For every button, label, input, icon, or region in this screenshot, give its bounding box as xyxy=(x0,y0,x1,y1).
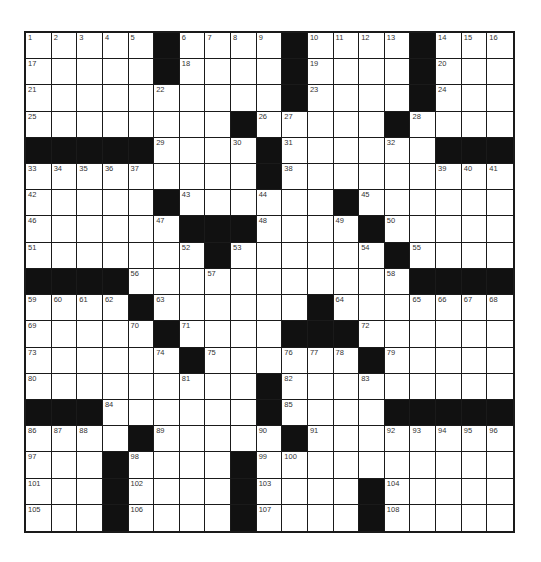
answer-cell[interactable] xyxy=(308,479,334,505)
answer-cell[interactable] xyxy=(77,321,103,347)
answer-cell[interactable]: 61 xyxy=(77,295,103,321)
answer-cell[interactable] xyxy=(231,321,257,347)
answer-cell[interactable]: 1 xyxy=(26,33,52,59)
answer-cell[interactable] xyxy=(487,112,513,138)
answer-cell[interactable] xyxy=(231,85,257,111)
answer-cell[interactable] xyxy=(205,295,231,321)
answer-cell[interactable] xyxy=(359,295,385,321)
answer-cell[interactable] xyxy=(77,348,103,374)
answer-cell[interactable]: 13 xyxy=(385,33,411,59)
answer-cell[interactable] xyxy=(334,164,360,190)
answer-cell[interactable]: 81 xyxy=(180,374,206,400)
answer-cell[interactable] xyxy=(231,426,257,452)
answer-cell[interactable] xyxy=(334,505,360,531)
answer-cell[interactable]: 4 xyxy=(103,33,129,59)
answer-cell[interactable] xyxy=(334,426,360,452)
answer-cell[interactable] xyxy=(487,85,513,111)
answer-cell[interactable] xyxy=(77,452,103,478)
answer-cell[interactable]: 93 xyxy=(410,426,436,452)
answer-cell[interactable] xyxy=(334,112,360,138)
answer-cell[interactable] xyxy=(52,479,78,505)
answer-cell[interactable]: 31 xyxy=(282,138,308,164)
answer-cell[interactable]: 87 xyxy=(52,426,78,452)
answer-cell[interactable] xyxy=(359,426,385,452)
answer-cell[interactable] xyxy=(462,321,488,347)
answer-cell[interactable]: 71 xyxy=(180,321,206,347)
answer-cell[interactable] xyxy=(205,374,231,400)
answer-cell[interactable]: 8 xyxy=(231,33,257,59)
answer-cell[interactable]: 91 xyxy=(308,426,334,452)
answer-cell[interactable] xyxy=(308,452,334,478)
answer-cell[interactable]: 25 xyxy=(26,112,52,138)
answer-cell[interactable] xyxy=(103,85,129,111)
answer-cell[interactable] xyxy=(334,452,360,478)
answer-cell[interactable]: 77 xyxy=(308,348,334,374)
answer-cell[interactable] xyxy=(77,243,103,269)
answer-cell[interactable] xyxy=(77,190,103,216)
answer-cell[interactable] xyxy=(334,138,360,164)
answer-cell[interactable] xyxy=(77,85,103,111)
answer-cell[interactable] xyxy=(436,348,462,374)
answer-cell[interactable] xyxy=(103,426,129,452)
answer-cell[interactable] xyxy=(487,374,513,400)
answer-cell[interactable] xyxy=(231,295,257,321)
answer-cell[interactable] xyxy=(103,374,129,400)
answer-cell[interactable] xyxy=(487,505,513,531)
answer-cell[interactable] xyxy=(129,85,155,111)
answer-cell[interactable] xyxy=(205,112,231,138)
answer-cell[interactable]: 63 xyxy=(154,295,180,321)
answer-cell[interactable] xyxy=(487,243,513,269)
answer-cell[interactable]: 106 xyxy=(129,505,155,531)
answer-cell[interactable] xyxy=(154,269,180,295)
answer-cell[interactable] xyxy=(52,452,78,478)
answer-cell[interactable]: 2 xyxy=(52,33,78,59)
answer-cell[interactable] xyxy=(154,400,180,426)
answer-cell[interactable] xyxy=(257,85,283,111)
answer-cell[interactable]: 84 xyxy=(103,400,129,426)
answer-cell[interactable]: 60 xyxy=(52,295,78,321)
answer-cell[interactable]: 82 xyxy=(282,374,308,400)
answer-cell[interactable]: 96 xyxy=(487,426,513,452)
answer-cell[interactable] xyxy=(77,216,103,242)
answer-cell[interactable] xyxy=(334,243,360,269)
answer-cell[interactable]: 67 xyxy=(462,295,488,321)
answer-cell[interactable] xyxy=(282,295,308,321)
answer-cell[interactable] xyxy=(231,400,257,426)
answer-cell[interactable] xyxy=(129,400,155,426)
answer-cell[interactable] xyxy=(129,112,155,138)
answer-cell[interactable] xyxy=(205,400,231,426)
answer-cell[interactable]: 10 xyxy=(308,33,334,59)
answer-cell[interactable] xyxy=(308,243,334,269)
answer-cell[interactable]: 74 xyxy=(154,348,180,374)
answer-cell[interactable] xyxy=(462,85,488,111)
answer-cell[interactable]: 107 xyxy=(257,505,283,531)
answer-cell[interactable] xyxy=(436,190,462,216)
answer-cell[interactable] xyxy=(436,452,462,478)
answer-cell[interactable]: 55 xyxy=(410,243,436,269)
answer-cell[interactable] xyxy=(282,479,308,505)
answer-cell[interactable]: 95 xyxy=(462,426,488,452)
answer-cell[interactable]: 22 xyxy=(154,85,180,111)
answer-cell[interactable]: 101 xyxy=(26,479,52,505)
answer-cell[interactable]: 17 xyxy=(26,59,52,85)
answer-cell[interactable] xyxy=(103,243,129,269)
answer-cell[interactable] xyxy=(385,85,411,111)
answer-cell[interactable]: 9 xyxy=(257,33,283,59)
answer-cell[interactable] xyxy=(410,190,436,216)
answer-cell[interactable] xyxy=(129,348,155,374)
answer-cell[interactable]: 29 xyxy=(154,138,180,164)
answer-cell[interactable] xyxy=(52,216,78,242)
answer-cell[interactable]: 23 xyxy=(308,85,334,111)
answer-cell[interactable] xyxy=(77,59,103,85)
answer-cell[interactable] xyxy=(180,164,206,190)
answer-cell[interactable] xyxy=(385,321,411,347)
answer-cell[interactable] xyxy=(205,452,231,478)
answer-cell[interactable] xyxy=(334,479,360,505)
answer-cell[interactable] xyxy=(359,164,385,190)
answer-cell[interactable] xyxy=(52,85,78,111)
answer-cell[interactable]: 104 xyxy=(385,479,411,505)
answer-cell[interactable]: 80 xyxy=(26,374,52,400)
answer-cell[interactable] xyxy=(334,59,360,85)
answer-cell[interactable]: 49 xyxy=(334,216,360,242)
answer-cell[interactable]: 76 xyxy=(282,348,308,374)
